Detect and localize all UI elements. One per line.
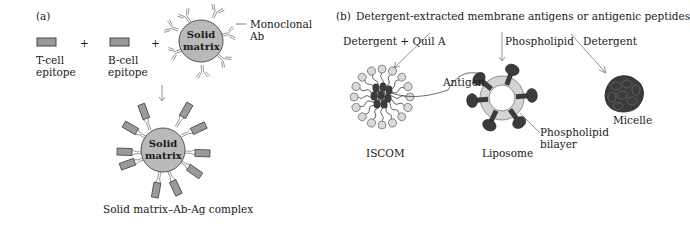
- path-iscom-label: Detergent + Quil A: [343, 35, 445, 47]
- panel-b-label: (b): [336, 10, 351, 22]
- solid-matrix-top-line1: Solid: [183, 29, 219, 41]
- t-cell-epitope-shape: [37, 38, 56, 46]
- b-cell-line2: epitope: [108, 66, 148, 78]
- complex-caption: Solid matrix–Ab-Ag complex: [103, 203, 253, 215]
- solid-matrix-top-line2: matrix: [183, 41, 219, 53]
- t-cell-line2: epitope: [36, 66, 76, 78]
- panel-b: [350, 32, 643, 133]
- monoclonal-line2: Ab: [250, 30, 312, 42]
- bilayer-line1: Phospholipid: [540, 126, 609, 138]
- t-cell-epitope-label: T-cell epitope: [36, 54, 76, 78]
- solid-matrix-bottom-line2: matrix: [145, 150, 181, 162]
- solid-matrix-bottom-label: Solid matrix: [145, 138, 181, 162]
- path-micelle-label: Detergent: [583, 35, 637, 47]
- iscom-shape: [350, 65, 414, 129]
- b-cell-epitope-label: B-cell epitope: [108, 54, 148, 78]
- solid-matrix-bottom-line1: Solid: [145, 138, 181, 150]
- b-cell-line1: B-cell: [108, 54, 148, 66]
- t-cell-line1: T-cell: [36, 54, 76, 66]
- monoclonal-line1: Monoclonal: [250, 18, 312, 30]
- path-liposome-label: Phospholipid: [505, 35, 574, 47]
- micelle-shape: [605, 76, 643, 112]
- solid-matrix-top-label: Solid matrix: [183, 29, 219, 53]
- b-cell-epitope-shape: [110, 38, 129, 46]
- panel-a-label: (a): [36, 10, 50, 22]
- plus-sign-2: +: [151, 37, 160, 49]
- micelle-caption: Micelle: [613, 114, 652, 126]
- monoclonal-ab-label: Monoclonal Ab: [250, 18, 312, 42]
- bilayer-line2: bilayer: [540, 138, 609, 150]
- antigen-label: Antigen: [443, 76, 485, 88]
- plus-sign-1: +: [80, 37, 89, 49]
- phospholipid-bilayer-label: Phospholipid bilayer: [540, 126, 609, 150]
- panel-b-title: Detergent-extracted membrane antigens or…: [356, 10, 690, 22]
- iscom-caption: ISCOM: [366, 147, 405, 159]
- liposome-caption: Liposome: [482, 147, 533, 159]
